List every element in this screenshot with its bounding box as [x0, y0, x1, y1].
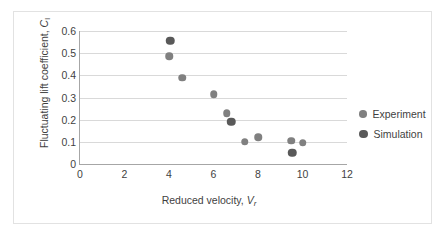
data-point-simulation	[288, 149, 297, 158]
legend-entry-experiment[interactable]: Experiment	[359, 104, 426, 124]
data-point-experiment	[241, 138, 249, 146]
gridline	[80, 31, 347, 32]
legend-entry-simulation[interactable]: Simulation	[359, 124, 426, 144]
gridline	[80, 120, 347, 121]
y-axis-tick-label: 0.3	[61, 92, 76, 104]
legend-marker-icon	[359, 110, 367, 118]
x-axis-title-subscript: r	[254, 199, 257, 208]
x-axis-tick-label: 0	[77, 168, 83, 180]
data-point-simulation	[227, 118, 236, 127]
y-axis-tick-label: 0.1	[61, 136, 76, 148]
y-axis-tick-label: 0.6	[61, 25, 76, 37]
x-axis-tick-label: 2	[122, 168, 128, 180]
chart-legend: ExperimentSimulation	[359, 104, 426, 144]
legend-marker-icon	[359, 130, 368, 139]
gridline	[80, 53, 347, 54]
data-point-experiment	[288, 137, 296, 145]
legend-label: Simulation	[374, 128, 423, 140]
y-axis-tick-label: 0.2	[61, 114, 76, 126]
y-axis-title-text: Fluctuating lift coefficient,	[38, 27, 50, 148]
y-axis-title-symbol: C	[38, 20, 50, 28]
data-point-experiment	[210, 90, 218, 98]
x-axis-tick-label: 8	[255, 168, 261, 180]
data-point-experiment	[223, 109, 231, 117]
gridline	[80, 75, 347, 76]
y-axis-title: Fluctuating lift coefficient, Cl	[38, 8, 52, 158]
plot-area: 00.10.20.30.40.50.6 024681012	[79, 31, 347, 165]
y-axis-tick-label: 0	[70, 158, 76, 170]
x-axis-title-text: Reduced velocity,	[162, 194, 247, 206]
y-axis-tick-label: 0.4	[61, 69, 76, 81]
chart-frame: Fluctuating lift coefficient, Cl Reduced…	[13, 11, 432, 224]
y-axis-title-subscript: l	[43, 18, 52, 20]
data-point-experiment	[254, 134, 262, 142]
x-axis-tick-label: 6	[211, 168, 217, 180]
chart-figure: Fluctuating lift coefficient, Cl Reduced…	[0, 0, 447, 238]
gridline	[80, 164, 347, 165]
gridline	[80, 142, 347, 143]
x-axis-title: Reduced velocity, Vr	[64, 194, 354, 206]
data-point-simulation	[166, 37, 175, 46]
data-point-experiment	[165, 53, 173, 61]
x-axis-tick-label: 12	[341, 168, 353, 180]
x-axis-tick-label: 10	[297, 168, 309, 180]
x-axis-tick-label: 4	[166, 168, 172, 180]
data-point-experiment	[299, 139, 307, 147]
y-axis-tick-label: 0.5	[61, 47, 76, 59]
x-axis-title-symbol: V	[247, 194, 254, 206]
data-point-experiment	[179, 74, 187, 82]
legend-label: Experiment	[373, 108, 426, 120]
